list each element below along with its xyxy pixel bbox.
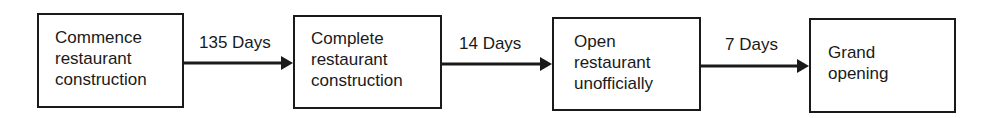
- node-label: Grand opening: [828, 42, 889, 84]
- arrow-3-head-icon: [797, 59, 809, 73]
- edge-label-135-days: 135 Days: [199, 33, 271, 53]
- edge-label-7-days: 7 Days: [725, 35, 778, 55]
- node-complete: Complete restaurant construction: [293, 15, 442, 109]
- node-label: Complete restaurant construction: [311, 28, 403, 91]
- node-open-unofficial: Open restaurant unofficially: [552, 17, 701, 111]
- edge-label-14-days: 14 Days: [459, 34, 521, 54]
- arrow-2-head-icon: [540, 57, 552, 71]
- node-label: Commence restaurant construction: [55, 27, 147, 90]
- node-label: Open restaurant unofficially: [574, 31, 653, 94]
- node-grand-opening: Grand opening: [809, 18, 956, 113]
- node-commence: Commence restaurant construction: [37, 13, 184, 108]
- arrow-1-head-icon: [281, 56, 293, 70]
